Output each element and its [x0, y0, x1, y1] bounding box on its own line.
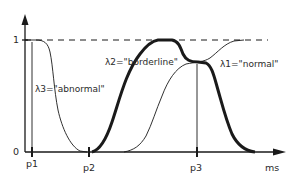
curve-lambda3-abnormal — [25, 40, 87, 152]
x-tick-label-p2: p2 — [83, 163, 95, 173]
curve-label-lambda2: λ2="borderline" — [105, 58, 178, 67]
y-axis-arrow-icon — [22, 14, 29, 25]
x-axis-arrow-icon — [273, 149, 286, 156]
x-tick-label-p3: p3 — [190, 163, 202, 173]
x-axis-unit-label: ms — [265, 163, 279, 173]
curve-label-lambda3: λ3="abnormal" — [35, 85, 105, 94]
curve-label-lambda1: λ1="normal" — [220, 60, 278, 69]
x-tick-label-p1: p1 — [26, 159, 38, 169]
y-tick-label-one: 1 — [13, 35, 19, 45]
y-tick-label-zero: 0 — [13, 147, 19, 157]
